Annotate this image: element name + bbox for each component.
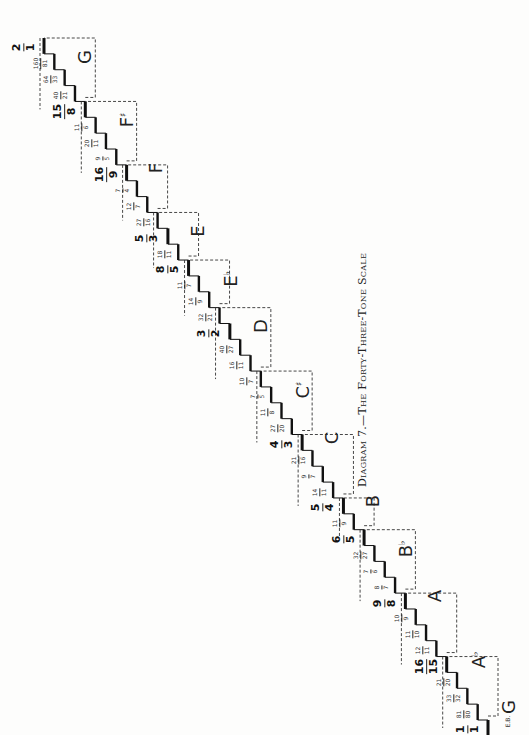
ratio-label: 118 — [260, 409, 275, 417]
staircase-graphic — [0, 0, 529, 735]
ratio-numerator: 64 — [43, 76, 49, 84]
ratio-numerator: 27 — [271, 425, 277, 433]
flat-icon: ♭ — [222, 271, 232, 275]
ratio-numerator: 7 — [250, 395, 256, 399]
ratio-denominator: 6 — [373, 569, 379, 573]
ratio-label: 53 — [135, 234, 160, 242]
ratio-denominator: 16 — [145, 219, 151, 227]
ratio-numerator: 40 — [219, 345, 225, 353]
ratio-label: 2720 — [271, 425, 286, 433]
ratio-denominator: 5 — [259, 395, 265, 399]
ratio-label: 1611 — [229, 361, 244, 369]
dashed-group-box — [44, 38, 95, 97]
ratio-label: 98 — [372, 599, 397, 607]
ratio-numerator: 81 — [456, 710, 462, 718]
ratio-denominator: 7 — [187, 284, 193, 288]
ratio-label: 54 — [310, 504, 335, 512]
ratio-denominator: 3 — [283, 441, 294, 449]
ratio-label: 43 — [269, 441, 294, 449]
ratio-denominator: 4 — [324, 504, 335, 512]
flat-icon: ♭ — [398, 540, 408, 544]
ratio-denominator: 20 — [280, 425, 286, 433]
ratio-numerator: 5 — [135, 234, 146, 242]
ratio-numerator: 32 — [353, 552, 359, 560]
ratio-label: 107 — [240, 377, 255, 385]
ratio-denominator: 5 — [169, 266, 180, 274]
ratio-denominator: 7 — [135, 205, 141, 209]
ratio-numerator: 3 — [197, 330, 208, 338]
flat-icon: ♭ — [470, 651, 480, 655]
ratio-label: 1211 — [415, 647, 430, 655]
ratio-label: 6433 — [43, 76, 58, 84]
ratio-label: 119 — [333, 520, 348, 528]
ratio-label: 21 — [11, 44, 36, 52]
ratio-denominator: 6 — [83, 125, 89, 129]
ratio-label: 116 — [74, 123, 89, 131]
ratio-numerator: 16 — [94, 167, 105, 182]
ratio-numerator: 11 — [178, 282, 184, 290]
ratio-numerator: 160 — [34, 58, 40, 69]
caption-text: Diagram 7.—The Forty-Three-Tone Scale — [356, 253, 369, 487]
ratio-numerator: 12 — [126, 203, 132, 211]
note-name-c-sharp: C♯ — [295, 381, 313, 398]
ratio-denominator: 7 — [249, 379, 255, 383]
ratio-denominator: 9 — [404, 617, 410, 621]
ratio-numerator: 9 — [95, 157, 101, 161]
ratio-denominator: 1 — [469, 726, 480, 734]
ratio-numerator: 10 — [395, 615, 401, 623]
ratio-denominator: 11 — [321, 488, 327, 496]
ratio-label: 127 — [126, 203, 141, 211]
ratio-denominator: 27 — [228, 345, 234, 353]
ratio-denominator: 15 — [428, 659, 439, 674]
ratio-label: 3332 — [446, 694, 461, 702]
ratio-numerator: 9 — [302, 474, 308, 478]
ratio-denominator: 5 — [104, 157, 110, 161]
ratio-denominator: 80 — [465, 710, 471, 718]
ratio-denominator: 7 — [383, 585, 389, 589]
ratio-denominator: 2 — [211, 330, 222, 338]
ratio-label: 158 — [52, 104, 77, 119]
ratio-numerator: 14 — [312, 488, 318, 496]
ratio-numerator: 32 — [198, 314, 204, 322]
ratio-numerator: 7 — [116, 189, 122, 193]
ratio-numerator: 18 — [157, 250, 163, 258]
note-name-f-sharp: F♯ — [118, 113, 136, 128]
ratio-numerator: 11 — [74, 123, 80, 131]
ratio-label: 95 — [95, 157, 110, 161]
ratio-label: 11 — [455, 726, 480, 734]
ratio-numerator: 21 — [436, 679, 442, 687]
ratio-numerator: 16 — [414, 659, 425, 674]
ratio-label: 2011 — [85, 139, 100, 147]
ratio-label: 149 — [188, 298, 203, 306]
ratio-label: 1411 — [312, 488, 327, 496]
forty-three-tone-diagram: 1181803332212016151211111010998877632276… — [0, 0, 529, 735]
ratio-numerator: 7 — [364, 569, 370, 573]
ratio-denominator: 11 — [166, 250, 172, 258]
ratio-denominator: 9 — [342, 522, 348, 526]
ratio-denominator: 21 — [207, 314, 213, 322]
ratio-numerator: 21 — [291, 456, 297, 464]
ratio-label: 1615 — [414, 659, 439, 674]
ratio-label: 3227 — [353, 552, 368, 560]
ratio-numerator: 6 — [331, 536, 342, 544]
note-name-f: F — [147, 163, 165, 173]
note-name-b: B — [365, 495, 383, 507]
ratio-numerator: 1 — [455, 726, 466, 734]
ratio-label: 16081 — [34, 58, 49, 69]
start-sub-label: E.B. — [504, 716, 511, 728]
ratio-denominator: 8 — [269, 411, 275, 415]
ratio-numerator: 27 — [136, 219, 142, 227]
note-name-c: C — [323, 431, 341, 444]
ratio-label: 76 — [364, 569, 379, 573]
ratio-numerator: 10 — [240, 377, 246, 385]
ratio-denominator: 1 — [25, 44, 36, 52]
dashed-group-box — [261, 371, 312, 430]
ratio-numerator: 14 — [188, 298, 194, 306]
ratio-label: 8180 — [456, 710, 471, 718]
ratio-label: 74 — [116, 189, 131, 193]
ratio-denominator: 33 — [52, 76, 58, 84]
ratio-denominator: 7 — [311, 474, 317, 478]
note-name-a: A — [427, 590, 445, 602]
ratio-denominator: 9 — [108, 171, 119, 179]
ratio-label: 97 — [302, 474, 317, 478]
